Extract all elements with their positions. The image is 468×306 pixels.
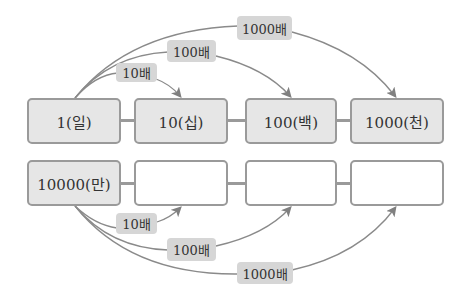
place-value-box-hundreds: 100(백) — [245, 98, 337, 144]
multiplier-tag-bottom-100x: 100배 — [167, 238, 216, 261]
connector — [336, 182, 350, 185]
multiplier-tag-top-1000x: 1000배 — [237, 16, 292, 40]
answer-box-1[interactable] — [134, 160, 228, 206]
place-value-box-tens: 10(십) — [134, 98, 228, 144]
answer-box-3[interactable] — [350, 160, 444, 206]
multiplier-tag-bottom-10x: 10배 — [116, 213, 157, 234]
answer-box-2[interactable] — [245, 160, 337, 206]
multiplier-tag-bottom-1000x: 1000배 — [237, 262, 293, 284]
multiplier-tag-top-100x: 100배 — [167, 40, 216, 62]
multiplier-tag-top-10x: 10배 — [116, 63, 157, 82]
connector — [120, 119, 134, 122]
place-value-box-ten-thousands: 10000(만) — [27, 160, 121, 206]
place-value-box-ones: 1(일) — [27, 98, 121, 144]
connector — [120, 182, 134, 185]
connector — [336, 119, 350, 122]
arrow-layer — [0, 0, 468, 306]
connector — [228, 182, 245, 185]
place-value-box-thousands: 1000(천) — [350, 98, 444, 144]
connector — [228, 119, 245, 122]
